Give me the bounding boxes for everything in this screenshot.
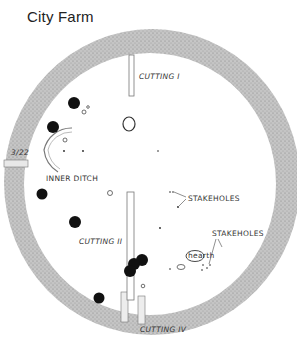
pit <box>47 121 59 133</box>
pit <box>68 97 80 109</box>
pit <box>69 216 81 228</box>
site-plan: CUTTING I CUTTING II CUTTING IV INNER DI… <box>0 0 297 344</box>
cutting-1-label: CUTTING I <box>139 72 180 81</box>
ditch-section-south-b <box>138 296 145 324</box>
inner-ditch-label: INNER DITCH <box>46 174 98 183</box>
cutting-4-label: CUTTING IV <box>140 325 187 334</box>
pit <box>37 189 48 200</box>
stakeholes-label-1: STAKEHOLES <box>188 194 240 203</box>
pit <box>124 265 136 277</box>
cutting-2-trench <box>127 192 134 300</box>
large-posthole <box>123 117 135 131</box>
stakeholes-label-2: STAKEHOLES <box>212 229 264 238</box>
pit <box>94 293 105 304</box>
cutting-1-trench <box>129 55 134 96</box>
ditch-section-label: 3/22 <box>11 148 29 157</box>
cutting-2-label: CUTTING II <box>79 237 123 246</box>
ditch-section-west <box>4 160 28 167</box>
